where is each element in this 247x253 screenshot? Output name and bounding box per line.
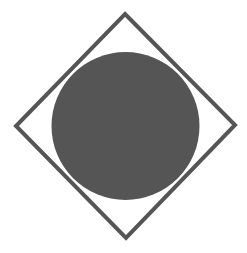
filled-circle [52, 52, 200, 200]
diagram-canvas [0, 0, 247, 253]
